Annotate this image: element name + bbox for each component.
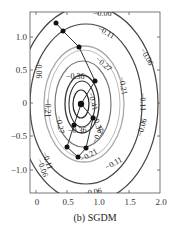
chart-caption: (b) SGDM	[73, 212, 116, 224]
trajectory-point	[76, 155, 81, 160]
contour-label: −0.36	[66, 72, 85, 81]
trajectory-point	[61, 29, 66, 34]
contour-0.06	[18, 6, 158, 202]
trajectory-point	[54, 21, 59, 26]
contour-label: −0.06	[138, 47, 155, 68]
trajectory-point	[84, 146, 89, 151]
y-tick-label: −1.0	[11, 165, 28, 175]
contour-label: −0.11	[138, 93, 148, 112]
contour-label: −0.11	[104, 155, 124, 172]
trajectory-point	[77, 45, 82, 50]
trajectory-line	[56, 23, 95, 157]
trajectory-point	[65, 145, 70, 150]
contour-lines	[18, 6, 158, 202]
y-tick-label: 1.0	[16, 32, 28, 42]
contour-label: −0.27	[94, 55, 114, 74]
minimum-marker	[78, 101, 84, 107]
contour-label: −0.06	[34, 60, 43, 79]
x-tick-label: 1.0	[93, 197, 105, 207]
contour-label: −0.21	[43, 99, 52, 118]
x-tick-label: 0.5	[62, 197, 74, 207]
trajectory-point	[93, 79, 98, 84]
plot-mask	[0, 0, 180, 234]
x-tick-label: 1.5	[124, 197, 136, 207]
x-tick-label: 0	[35, 197, 40, 207]
contour-label: −0.06	[135, 117, 148, 137]
contour-label: −0.27	[54, 115, 66, 135]
y-tick-label: 0	[23, 98, 28, 108]
trajectory-point	[72, 123, 77, 128]
contour-label-group: −0.06 −0.11 −0.06 −0.27 −0.21 −0.11 −0.0…	[34, 9, 155, 198]
trajectory-point	[91, 116, 96, 121]
x-tick-label: 2.0	[155, 197, 167, 207]
y-tick-label: 0.5	[16, 65, 28, 75]
contour-chart: −0.06 −0.11 −0.06 −0.27 −0.21 −0.11 −0.0…	[0, 0, 180, 234]
contour-label: −0.11	[96, 24, 116, 41]
y-tick-label: −0.5	[11, 131, 28, 141]
